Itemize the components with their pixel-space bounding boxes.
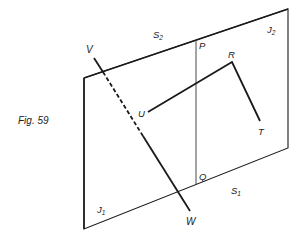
label-v: V bbox=[86, 44, 94, 55]
label-p: P bbox=[199, 40, 206, 51]
label-s2: S2 bbox=[153, 29, 163, 41]
label-s1: S1 bbox=[231, 185, 241, 197]
label-r: R bbox=[228, 49, 235, 60]
line-vw-solid-top bbox=[94, 58, 103, 72]
figure-59-diagram: Fig. 59 V W P Q R T U S2 J2 S1 J1 bbox=[0, 0, 305, 240]
line-urt bbox=[148, 62, 260, 121]
line-vw-solid-bottom bbox=[143, 136, 190, 211]
label-t: T bbox=[258, 126, 265, 137]
caption-fig-59: Fig. 59 bbox=[18, 115, 49, 126]
line-vw-dashed bbox=[103, 72, 143, 136]
label-q: Q bbox=[199, 171, 207, 182]
plane-parallelogram bbox=[84, 9, 288, 229]
label-j2: J2 bbox=[266, 24, 276, 36]
label-w: W bbox=[186, 216, 197, 227]
label-u: U bbox=[138, 108, 145, 119]
label-j1: J1 bbox=[96, 204, 106, 216]
plane-top-edge bbox=[84, 9, 288, 78]
